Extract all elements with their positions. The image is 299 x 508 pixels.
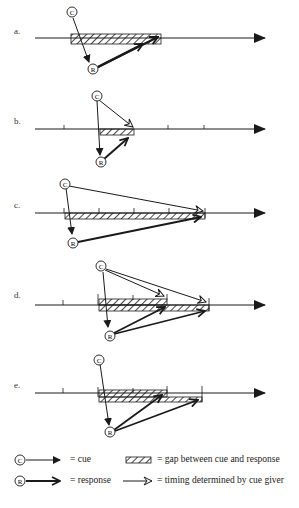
cue-symbol: C [92,91,102,101]
gap-bar [65,213,205,219]
svg-text:R: R [18,478,23,486]
gap-bar [99,390,167,397]
panel-c: C R [35,179,265,248]
response-arrow [78,217,201,242]
legend-response-text: = response [70,475,111,485]
svg-text:R: R [108,429,113,437]
cue-symbol: C [96,261,106,271]
panel-label-c: c. [14,200,20,210]
cue-symbol: C [67,7,77,17]
response-symbol: R [105,427,115,437]
svg-text:C: C [97,357,102,365]
cue-symbol: C [94,355,104,365]
gap-bar [99,299,167,305]
panel-label-a: a. [14,26,20,36]
cue-response-timing-diagram: C R C R [0,0,299,508]
svg-text:C: C [70,9,75,17]
svg-text:R: R [99,159,104,167]
svg-text:R: R [71,240,76,248]
cue-symbol: C [60,179,70,189]
response-arrow [114,311,205,334]
timing-arrow [105,270,164,296]
timing-arrow [69,186,203,211]
svg-text:R: R [108,333,113,341]
svg-text:C: C [99,263,104,271]
panel-e: C R [35,355,265,437]
svg-text:C: C [63,181,68,189]
panel-label-d: d. [14,290,21,300]
panel-label-b: b. [14,116,21,126]
response-symbol: R [68,238,78,248]
legend-gap-bar [126,457,151,463]
gap-bar [99,397,202,402]
svg-text:C: C [95,93,100,101]
cue-arrow [97,101,100,155]
panel-a: C R [35,7,265,74]
svg-text:C: C [18,457,23,465]
timing-arrow [99,100,133,127]
legend-cue-symbol: C [15,455,25,465]
legend-timing-text: = timing determined by cue giver [157,475,284,485]
panel-d: C R [35,261,265,341]
legend-cue-text: = cue [70,454,91,464]
panel-label-e: e. [14,380,20,390]
gap-bar [100,129,134,135]
response-symbol: R [96,157,106,167]
panel-b: C R [35,91,265,167]
response-arrow [104,138,128,159]
response-arrow [115,400,198,431]
response-symbol: R [105,331,115,341]
response-symbol: R [88,64,98,74]
gap-bar [99,305,209,311]
svg-text:R: R [91,66,96,74]
timing-arrow [106,269,206,302]
legend-response-symbol: R [15,476,25,486]
cue-arrow [66,188,72,234]
legend-gap-text: = gap between cue and response [157,454,280,464]
